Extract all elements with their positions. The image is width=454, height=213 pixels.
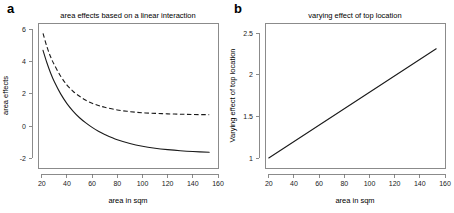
y-tick-label: 1 — [249, 155, 253, 162]
x-tick-label: 100 — [364, 180, 376, 187]
x-axis-title: area in sqm — [108, 196, 147, 205]
x-tick-label: 100 — [137, 180, 149, 187]
x-tick-label: 80 — [340, 180, 348, 187]
figure-container: a area effects based on a linear interac… — [0, 0, 454, 213]
panel-a: a area effects based on a linear interac… — [0, 0, 227, 213]
plot-title: area effects based on a linear interacti… — [60, 11, 195, 20]
x-tick-label: 120 — [162, 180, 174, 187]
y-tick-label: 2.5 — [243, 30, 253, 37]
plot-frame — [265, 23, 445, 168]
x-tick-label: 80 — [113, 180, 121, 187]
x-tick-label: 40 — [290, 180, 298, 187]
x-tick-label: 20 — [265, 180, 273, 187]
y-tick-label: 1.5 — [243, 113, 253, 120]
x-axis-title: area in sqm — [335, 196, 374, 205]
data-curve-2 — [43, 33, 209, 114]
x-tick-label: 40 — [63, 180, 71, 187]
x-tick-label: 120 — [389, 180, 401, 187]
x-tick-label: 160 — [212, 180, 224, 187]
y-axis-title: Varying effect of top location — [228, 49, 237, 143]
plot-title: varying effect of top location — [308, 11, 401, 20]
plot-frame — [38, 23, 218, 168]
y-tick-label: 0 — [22, 123, 26, 130]
panel-a-plot: area effects based on a linear interacti… — [0, 0, 227, 213]
y-tick-label: -2 — [20, 155, 26, 162]
panel-b-plot: varying effect of top location2040608010… — [227, 0, 454, 213]
x-tick-label: 20 — [38, 180, 46, 187]
x-tick-label: 60 — [315, 180, 323, 187]
panel-b: b varying effect of top location20406080… — [227, 0, 454, 213]
y-tick-label: 2 — [22, 90, 26, 97]
x-tick-label: 140 — [187, 180, 199, 187]
x-tick-label: 160 — [439, 180, 451, 187]
y-tick-label: 6 — [22, 26, 26, 33]
y-tick-label: 2 — [249, 71, 253, 78]
x-tick-label: 60 — [88, 180, 96, 187]
x-tick-label: 140 — [414, 180, 426, 187]
data-curve-1 — [269, 49, 436, 158]
y-axis-title: area effects — [1, 76, 10, 115]
data-curve-1 — [43, 50, 209, 152]
y-tick-label: 4 — [22, 58, 26, 65]
